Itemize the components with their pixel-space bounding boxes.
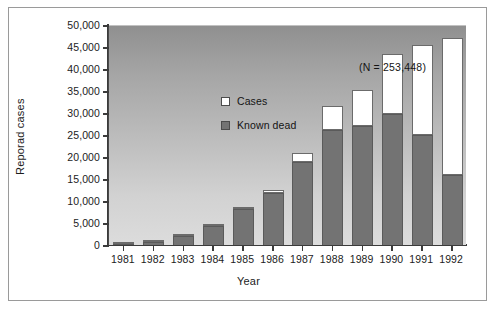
bar-1984 — [203, 225, 224, 245]
bar-1992 — [442, 38, 463, 245]
x-tick-mark — [391, 246, 393, 251]
y-tick-label: 35,000 — [67, 85, 100, 97]
x-tick-label: 1991 — [409, 253, 433, 265]
x-tick-label: 1990 — [380, 253, 404, 265]
y-axis-title: Reporad cases — [14, 98, 26, 175]
y-tick-label: 50,000 — [67, 19, 100, 31]
x-tick-mark — [302, 246, 304, 251]
x-axis-ticks: 1981198219831984198519861987198819891990… — [108, 246, 466, 272]
x-tick-mark — [362, 246, 364, 251]
y-tick-label: 20,000 — [67, 151, 100, 163]
y-tick-label: 45,000 — [67, 41, 100, 53]
x-tick-label: 1981 — [111, 253, 135, 265]
x-tick-label: 1983 — [171, 253, 195, 265]
bar-1981 — [113, 244, 134, 245]
y-tick-label: 25,000 — [67, 129, 100, 141]
y-tick-label: 15,000 — [67, 173, 100, 185]
bar-segment-known-dead — [352, 126, 373, 245]
bar-segment-cases — [412, 45, 433, 135]
x-tick-label: 1984 — [201, 253, 225, 265]
bar-1988 — [322, 106, 343, 245]
bar-segment-known-dead — [412, 135, 433, 245]
y-tick-label: 5,000 — [73, 217, 100, 229]
bar-1990 — [382, 54, 403, 245]
bar-segment-known-dead — [233, 209, 254, 245]
y-tick-mark — [103, 91, 109, 93]
bar-1987 — [292, 153, 313, 245]
chart-legend: CasesKnown dead — [221, 95, 296, 143]
bar-segment-known-dead — [292, 162, 313, 245]
legend-swatch-icon — [221, 121, 230, 130]
bar-segment-cases — [322, 106, 343, 130]
y-tick-mark — [103, 47, 109, 49]
bar-1983 — [173, 236, 194, 245]
x-tick-mark — [272, 246, 274, 251]
plot-top-edge — [109, 25, 466, 26]
bar-segment-known-dead — [173, 236, 194, 245]
y-tick-label: 40,000 — [67, 63, 100, 75]
legend-label: Known dead — [237, 119, 296, 131]
legend-label: Cases — [237, 95, 267, 107]
bar-1982 — [143, 242, 164, 245]
x-tick-label: 1992 — [439, 253, 463, 265]
bar-segment-known-dead — [203, 226, 224, 245]
legend-item: Known dead — [221, 119, 296, 131]
bar-segment-known-dead — [442, 175, 463, 245]
sample-size-annotation: (N = 253,448) — [359, 61, 426, 73]
y-tick-mark — [103, 157, 109, 159]
x-tick-mark — [153, 246, 155, 251]
y-tick-label: 0 — [94, 239, 100, 251]
y-tick-mark — [103, 25, 109, 27]
x-tick-label: 1988 — [320, 253, 344, 265]
y-tick-mark — [103, 201, 109, 203]
y-tick-mark — [103, 179, 109, 181]
x-tick-mark — [242, 246, 244, 251]
x-tick-label: 1982 — [141, 253, 165, 265]
bar-segment-cases — [292, 153, 313, 163]
bar-segment-known-dead — [143, 242, 164, 245]
y-tick-label: 30,000 — [67, 107, 100, 119]
x-tick-mark — [421, 246, 423, 251]
x-tick-label: 1989 — [350, 253, 374, 265]
y-tick-mark — [103, 113, 109, 115]
x-tick-mark — [183, 246, 185, 251]
x-tick-label: 1986 — [260, 253, 284, 265]
x-tick-label: 1987 — [290, 253, 314, 265]
y-tick-mark — [103, 135, 109, 137]
x-tick-mark — [451, 246, 453, 251]
x-tick-label: 1985 — [230, 253, 254, 265]
legend-item: Cases — [221, 95, 296, 107]
x-tick-mark — [123, 246, 125, 251]
bar-segment-cases — [352, 90, 373, 126]
bar-1985 — [233, 207, 254, 245]
y-tick-mark — [103, 69, 109, 71]
bar-segment-cases — [442, 38, 463, 175]
bar-segment-known-dead — [382, 114, 403, 245]
bar-1986 — [263, 190, 284, 245]
bar-segment-known-dead — [113, 244, 134, 245]
bar-segment-known-dead — [263, 193, 284, 245]
y-tick-mark — [103, 223, 109, 225]
chart-figure: Reporad cases 05,00010,00015,00020,00025… — [0, 0, 497, 311]
plot-area: 05,00010,00015,00020,00025,00030,00035,0… — [108, 25, 466, 245]
legend-swatch-icon — [221, 97, 230, 106]
y-tick-label: 10,000 — [67, 195, 100, 207]
bar-1991 — [412, 45, 433, 245]
x-tick-mark — [332, 246, 334, 251]
bar-1989 — [352, 90, 373, 245]
bar-segment-known-dead — [322, 130, 343, 245]
x-tick-mark — [212, 246, 214, 251]
x-axis-title: Year — [0, 275, 497, 287]
